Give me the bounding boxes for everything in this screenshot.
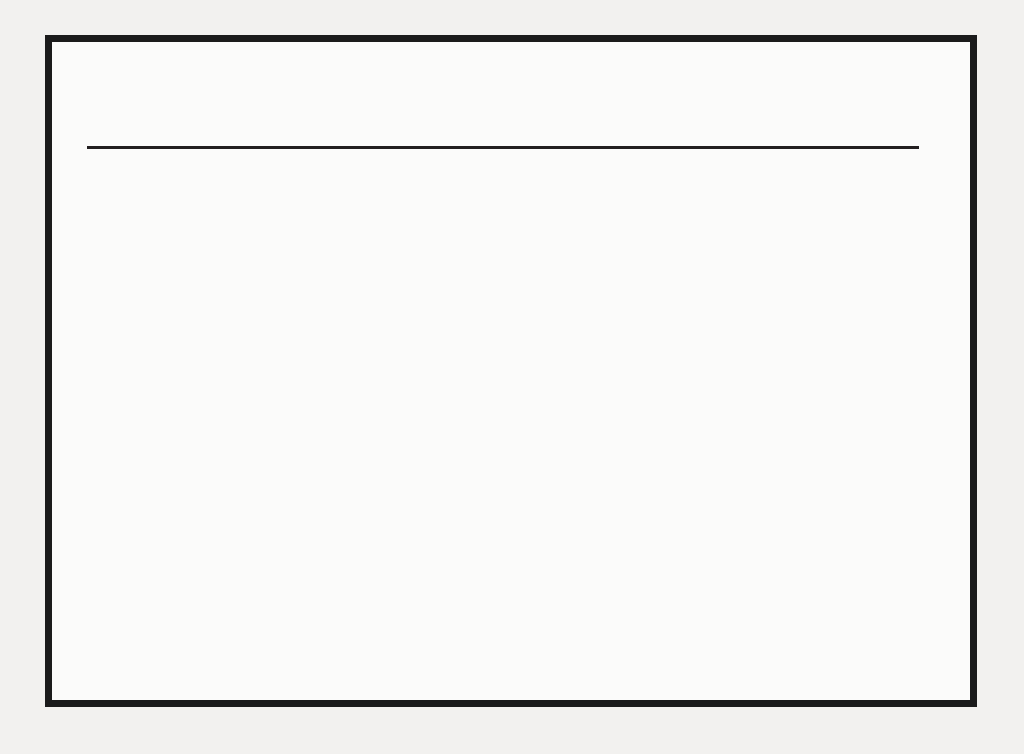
figure-inner — [52, 42, 970, 700]
chart-plot-area — [52, 160, 970, 650]
figure-frame — [45, 35, 977, 707]
title-divider — [87, 146, 919, 149]
line-chart — [52, 160, 970, 650]
